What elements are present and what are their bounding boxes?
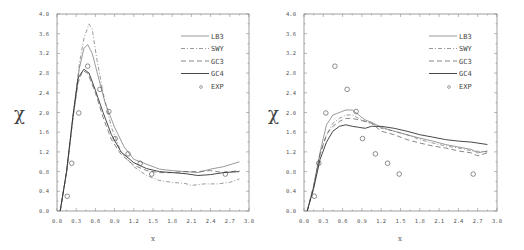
y-tick-label: 1.2 — [39, 149, 49, 155]
x-tick-label: 3.0 — [244, 218, 254, 224]
right-y-axis-title: χ — [268, 103, 279, 124]
x-tick-label: 0.0 — [52, 218, 62, 224]
exp-data-point — [324, 111, 329, 116]
x-tick-label: 0.3 — [318, 218, 328, 224]
exp-data-point — [85, 64, 90, 69]
x-tick-label: 2.7 — [225, 218, 235, 224]
series-gc4 — [307, 125, 487, 211]
y-tick-label: 0.4 — [39, 188, 50, 194]
exp-data-point — [333, 64, 338, 69]
y-tick-label: 3.2 — [286, 50, 296, 56]
y-tick-label: 2.4 — [39, 90, 50, 96]
legend-label-lb3: LB3 — [211, 33, 224, 41]
y-tick-label: 3.6 — [39, 31, 49, 37]
legend-label-swy: SWY — [211, 45, 224, 53]
exp-data-point — [149, 172, 154, 177]
x-tick-label: 0.9 — [110, 218, 120, 224]
right-x-axis-title: x — [398, 235, 402, 243]
y-tick-label: 1.2 — [286, 149, 296, 155]
legend-label-exp: EXP — [211, 83, 224, 91]
x-tick-label: 1.8 — [415, 218, 425, 224]
exp-data-point — [360, 136, 365, 141]
x-tick-label: 2.4 — [206, 218, 217, 224]
exp-data-point — [76, 111, 81, 116]
plot-frame — [304, 14, 497, 211]
x-tick-label: 2.7 — [473, 218, 483, 224]
legend-label-gc3: GC3 — [211, 58, 224, 66]
x-tick-label: 0.0 — [299, 218, 309, 224]
y-tick-label: 2.0 — [39, 110, 49, 116]
legend-label-lb3: LB3 — [459, 33, 472, 41]
y-tick-label: 4.0 — [39, 11, 49, 17]
y-tick-label: 2.8 — [286, 70, 296, 76]
x-tick-label: 1.2 — [376, 218, 386, 224]
x-tick-label: 0.6 — [338, 218, 348, 224]
plot-frame — [57, 14, 249, 211]
y-tick-label: 2.8 — [39, 70, 49, 76]
y-tick-label: 1.6 — [39, 129, 49, 135]
exp-data-point — [65, 194, 70, 199]
left-chart-panel: 0.00.30.60.91.21.51.82.12.42.73.00.00.40… — [39, 11, 254, 224]
left-x-axis-title: x — [151, 235, 155, 243]
legend-label-gc4: GC4 — [211, 70, 224, 78]
y-tick-label: 1.6 — [286, 129, 296, 135]
exp-data-point — [471, 172, 476, 177]
y-tick-label: 3.6 — [286, 31, 296, 37]
exp-data-point — [312, 194, 317, 199]
x-tick-label: 2.4 — [453, 218, 464, 224]
x-tick-label: 3.0 — [492, 218, 502, 224]
x-tick-label: 1.5 — [148, 218, 158, 224]
legend-label-gc4: GC4 — [459, 70, 472, 78]
exp-data-point — [397, 172, 402, 177]
y-tick-label: 0.8 — [39, 169, 49, 175]
y-tick-label: 0.0 — [286, 208, 296, 214]
x-tick-label: 0.6 — [90, 218, 100, 224]
y-tick-label: 0.0 — [39, 208, 49, 214]
y-tick-label: 0.8 — [286, 169, 296, 175]
exp-data-point — [385, 161, 390, 166]
x-tick-label: 2.1 — [434, 218, 444, 224]
x-tick-label: 1.2 — [129, 218, 139, 224]
right-chart-panel: 0.00.30.60.91.21.51.82.12.42.73.00.00.40… — [286, 11, 502, 224]
legend-label-swy: SWY — [459, 45, 472, 53]
legend-label-exp: EXP — [459, 83, 472, 91]
x-tick-label: 1.5 — [396, 218, 406, 224]
legend-marker-exp — [448, 86, 451, 89]
legend-label-gc3: GC3 — [459, 58, 472, 66]
y-tick-label: 2.0 — [286, 110, 296, 116]
x-tick-label: 1.8 — [167, 218, 177, 224]
x-tick-label: 0.9 — [357, 218, 367, 224]
left-y-axis-title: χ — [14, 103, 25, 124]
exp-data-point — [69, 161, 74, 166]
y-tick-label: 4.0 — [286, 11, 296, 17]
x-tick-label: 2.1 — [186, 218, 196, 224]
y-tick-label: 0.4 — [286, 188, 297, 194]
y-tick-label: 3.2 — [39, 50, 49, 56]
x-tick-label: 0.3 — [71, 218, 81, 224]
y-tick-label: 2.4 — [286, 90, 297, 96]
exp-data-point — [345, 87, 350, 92]
figure: 0.00.30.60.91.21.51.82.12.42.73.00.00.40… — [0, 0, 524, 250]
legend-marker-exp — [200, 86, 203, 89]
series-gc3 — [60, 71, 239, 211]
exp-data-point — [373, 152, 378, 157]
